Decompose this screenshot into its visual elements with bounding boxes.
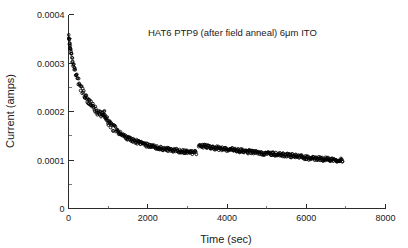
current-vs-time-scatter-plot: 02000400060008000 00.00010.00020.00030.0… <box>0 0 408 248</box>
y-tick-label: 0.0001 <box>37 156 65 166</box>
y-tick-label: 0.0002 <box>37 107 65 117</box>
x-tick-label: 2000 <box>138 213 158 223</box>
y-tick-label: 0.0003 <box>37 59 65 69</box>
plot-annotation-label: HAT6 PTP9 (after field anneal) 6μm ITO <box>148 27 317 38</box>
x-tick-label: 6000 <box>296 213 316 223</box>
x-tick-label: 8000 <box>375 213 395 223</box>
y-axis-title: Current (amps) <box>4 74 16 148</box>
y-tick-label: 0.0004 <box>37 10 65 20</box>
x-axis-title: Time (sec) <box>200 233 252 245</box>
chart-figure: 02000400060008000 00.00010.00020.00030.0… <box>0 0 408 248</box>
y-tick-label: 0 <box>59 204 64 214</box>
x-tick-label: 4000 <box>217 213 237 223</box>
x-tick-label: 0 <box>66 213 71 223</box>
